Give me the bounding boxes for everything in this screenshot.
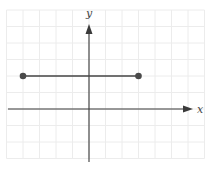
segment-group — [20, 73, 142, 80]
y-axis-arrow-icon — [86, 24, 93, 34]
right-endpoint-dot — [135, 73, 142, 80]
y-axis-label: y — [85, 7, 93, 20]
x-axis-label: x — [197, 103, 204, 116]
grid — [7, 10, 205, 159]
left-endpoint-dot — [20, 73, 27, 80]
coordinate-plane: x y — [0, 0, 214, 169]
